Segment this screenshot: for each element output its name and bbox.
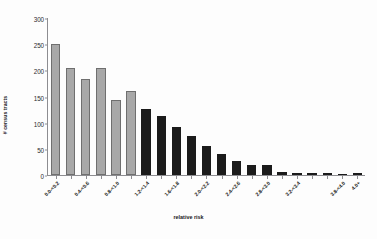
y-axis-tick-mark	[45, 97, 48, 98]
plot-area: 050100150200250300 0.0-<0.20.4-<0.60.8-<…	[47, 18, 365, 176]
x-axis-label-slot	[305, 179, 320, 213]
bar	[66, 68, 75, 175]
x-axis-label-slot: 2.4-<2.6	[229, 179, 244, 213]
bar-column	[63, 18, 78, 175]
bar-column	[139, 18, 154, 175]
bar-column	[78, 18, 93, 175]
bar	[323, 173, 332, 175]
bar	[51, 44, 60, 175]
x-axis-label-slot: 2.8-<3.0	[259, 179, 274, 213]
bar-column	[93, 18, 108, 175]
bar	[141, 109, 150, 175]
bar-column	[199, 18, 214, 175]
bar	[232, 161, 241, 175]
bar	[202, 146, 211, 175]
y-axis-tick-mark	[45, 45, 48, 46]
bar	[277, 172, 286, 175]
x-axis-tick-label: 4.0+	[350, 180, 361, 191]
bar-column	[305, 18, 320, 175]
y-axis-tick-mark	[45, 149, 48, 150]
bar-series	[48, 18, 365, 175]
bar	[187, 136, 196, 175]
x-axis-label-slot: 1.2-<1.4	[139, 179, 154, 213]
bar-column	[123, 18, 138, 175]
x-axis-title: relative risk	[0, 214, 377, 220]
x-axis-tick-labels: 0.0-<0.20.4-<0.60.8-<1.01.2-<1.41.6-<1.8…	[48, 179, 365, 213]
bar	[81, 79, 90, 175]
x-axis-label-slot: 4.0+	[350, 179, 365, 213]
bar	[126, 91, 135, 175]
bar	[292, 173, 301, 175]
bar-column	[244, 18, 259, 175]
bar-column	[350, 18, 365, 175]
bar-column	[320, 18, 335, 175]
x-axis-label-slot: 0.4-<0.6	[78, 179, 93, 213]
y-axis-tick-mark	[45, 176, 48, 177]
bar	[262, 165, 271, 175]
bar	[157, 116, 166, 175]
bar-column	[274, 18, 289, 175]
bar	[96, 68, 105, 175]
y-axis-tick-mark	[45, 71, 48, 72]
y-axis-tick-mark	[45, 123, 48, 124]
y-axis-tick-mark	[45, 19, 48, 20]
bar-column	[229, 18, 244, 175]
bar	[217, 154, 226, 175]
x-axis-label-slot: 2.0-<2.2	[199, 179, 214, 213]
bar-column	[184, 18, 199, 175]
bar-column	[154, 18, 169, 175]
x-axis-label-slot: 3.8-<4.0	[335, 179, 350, 213]
x-axis-label-slot: 0.0-<0.2	[48, 179, 63, 213]
x-axis-label-slot: 0.8-<1.0	[108, 179, 123, 213]
bar-column	[48, 18, 63, 175]
y-axis-title: # census tracts	[2, 60, 8, 170]
x-axis-label-slot: 3.2-<3.4	[290, 179, 305, 213]
x-axis-label-slot: 1.6-<1.8	[169, 179, 184, 213]
bar	[338, 174, 347, 175]
bar	[307, 173, 316, 175]
bar-column	[214, 18, 229, 175]
bar	[111, 100, 120, 175]
bar-chart-figure: # census tracts 050100150200250300 0.0-<…	[0, 0, 377, 239]
bar	[172, 127, 181, 175]
bar	[247, 165, 256, 175]
bar-column	[290, 18, 305, 175]
bar-column	[335, 18, 350, 175]
bar	[353, 173, 362, 175]
bar-column	[108, 18, 123, 175]
x-axis-tick-label: 0.0-<0.2	[43, 180, 60, 197]
bar-column	[169, 18, 184, 175]
bar-column	[259, 18, 274, 175]
